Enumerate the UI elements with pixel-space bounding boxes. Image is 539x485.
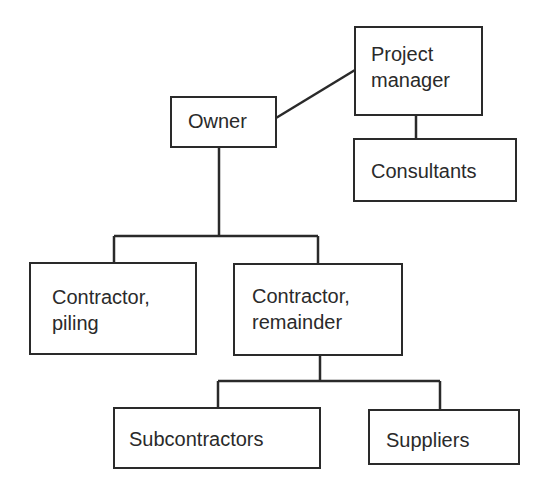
node-suppliers: Suppliers <box>368 409 520 465</box>
node-project-manager-line1: Project <box>371 42 433 67</box>
node-contractor-piling-line2: piling <box>52 311 99 336</box>
node-subcontractors-label: Subcontractors <box>129 427 264 452</box>
node-consultants: Consultants <box>353 138 517 202</box>
node-contractor-remainder: Contractor, remainder <box>233 263 403 356</box>
node-contractor-remainder-line2: remainder <box>252 310 342 335</box>
node-project-manager-line2: manager <box>371 68 450 93</box>
node-contractor-remainder-line1: Contractor, <box>252 284 350 309</box>
node-contractor-piling-line1: Contractor, <box>52 285 150 310</box>
node-consultants-label: Consultants <box>371 159 477 184</box>
node-owner-label: Owner <box>188 109 247 134</box>
node-project-manager: Project manager <box>354 26 483 116</box>
node-suppliers-label: Suppliers <box>386 428 469 453</box>
node-owner: Owner <box>170 96 277 148</box>
node-subcontractors: Subcontractors <box>113 407 321 469</box>
node-contractor-piling: Contractor, piling <box>29 262 197 355</box>
edge-owner-project-manager <box>276 70 355 118</box>
